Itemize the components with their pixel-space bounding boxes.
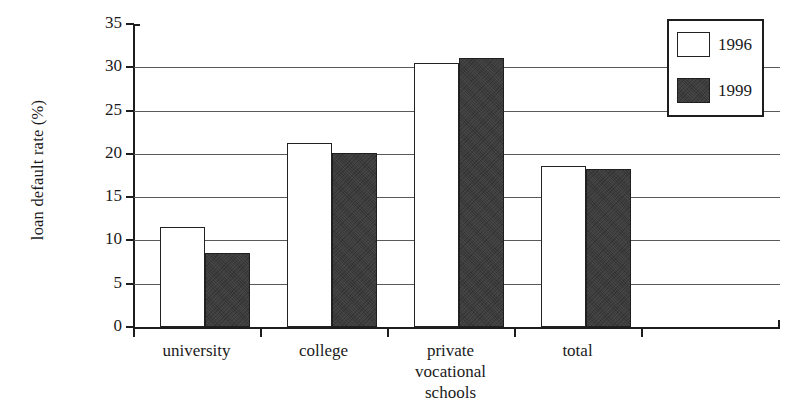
x-axis-tick bbox=[387, 327, 389, 337]
x-axis-line bbox=[133, 327, 780, 329]
cropped-title-fragment bbox=[0, 0, 800, 7]
x-axis-right-cap bbox=[778, 320, 780, 329]
bar-1996-private-vocational-schools bbox=[414, 63, 459, 327]
y-axis-title: loan default rate (%) bbox=[28, 55, 48, 285]
chart-figure: loan default rate (%) 05101520253035 uni… bbox=[0, 0, 800, 419]
y-axis-tick bbox=[126, 23, 134, 25]
legend-label-1999: 1999 bbox=[718, 81, 752, 100]
y-axis-tick bbox=[126, 283, 134, 285]
y-axis-tick-label: 10 bbox=[105, 229, 122, 249]
y-axis-tick-label: 30 bbox=[105, 56, 122, 76]
bar-1999-university bbox=[205, 253, 250, 327]
y-axis-tick-label: 0 bbox=[114, 316, 123, 336]
x-axis-tick bbox=[133, 327, 135, 337]
bar-1999-college bbox=[332, 153, 377, 327]
legend-swatch-1996-icon bbox=[677, 32, 710, 57]
x-axis-tick bbox=[514, 327, 516, 337]
y-axis-top-cap bbox=[133, 24, 140, 26]
bar-1996-university bbox=[160, 227, 205, 327]
y-axis-tick bbox=[126, 66, 134, 68]
bar-1999-private-vocational-schools bbox=[459, 58, 504, 327]
bar-1996-college bbox=[287, 143, 332, 327]
x-axis-category-label: total bbox=[489, 340, 666, 361]
y-axis-tick-label: 35 bbox=[105, 13, 122, 33]
legend-label-1996: 1996 bbox=[718, 35, 752, 54]
y-axis-tick-label: 15 bbox=[105, 186, 122, 206]
legend-item-1999: 1999 bbox=[677, 78, 752, 103]
y-axis-tick bbox=[126, 196, 134, 198]
y-axis-tick bbox=[126, 110, 134, 112]
y-axis-tick bbox=[126, 153, 134, 155]
x-axis-tick bbox=[641, 327, 643, 337]
bar-1999-total bbox=[586, 169, 631, 327]
y-axis-tick-label: 20 bbox=[105, 143, 122, 163]
y-axis-tick-label: 25 bbox=[105, 100, 122, 120]
legend: 1996 1999 bbox=[667, 19, 764, 117]
x-axis-tick bbox=[260, 327, 262, 337]
legend-item-1996: 1996 bbox=[677, 32, 752, 57]
legend-swatch-1999-icon bbox=[677, 78, 710, 103]
bar-1996-total bbox=[541, 166, 586, 327]
y-axis-tick-label: 5 bbox=[114, 273, 123, 293]
y-axis-tick bbox=[126, 239, 134, 241]
